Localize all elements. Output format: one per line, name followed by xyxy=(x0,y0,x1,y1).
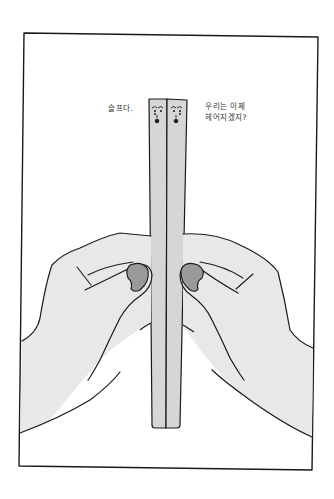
chopstick-left xyxy=(149,99,167,428)
comic-panel xyxy=(0,0,334,499)
caption-right-line1: 우리는 이제 xyxy=(205,101,247,112)
caption-right-line2: 헤어지겠지? xyxy=(205,112,247,123)
chopsticks xyxy=(149,99,187,428)
caption-left-text: 슬프다. xyxy=(108,104,133,113)
caption-right: 우리는 이제 헤어지겠지? xyxy=(205,101,247,123)
caption-left: 슬프다. xyxy=(108,103,133,114)
